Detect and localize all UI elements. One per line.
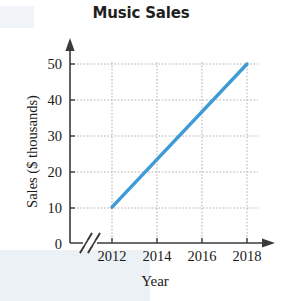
x-tick-label-2014: 2014: [134, 249, 180, 264]
y-tick-label-40: 40: [36, 93, 62, 108]
x-tick-label-2016: 2016: [179, 249, 225, 264]
y-tick-label-50: 50: [36, 57, 62, 72]
y-tick-label-0: 0: [36, 237, 62, 252]
x-tick-label-2012: 2012: [89, 249, 135, 264]
y-tick-label-10: 10: [36, 201, 62, 216]
y-tick-label-20: 20: [36, 165, 62, 180]
y-axis-arrowhead: [65, 38, 74, 51]
vertical-gridlines: [112, 62, 247, 243]
music-sales-line-chart: Music Sales Sales ($ thousands) Year: [0, 0, 282, 301]
x-axis-arrowhead: [262, 238, 275, 247]
horizontal-gridlines: [70, 64, 258, 208]
y-tick-label-30: 30: [36, 129, 62, 144]
x-tick-label-2018: 2018: [224, 249, 270, 264]
